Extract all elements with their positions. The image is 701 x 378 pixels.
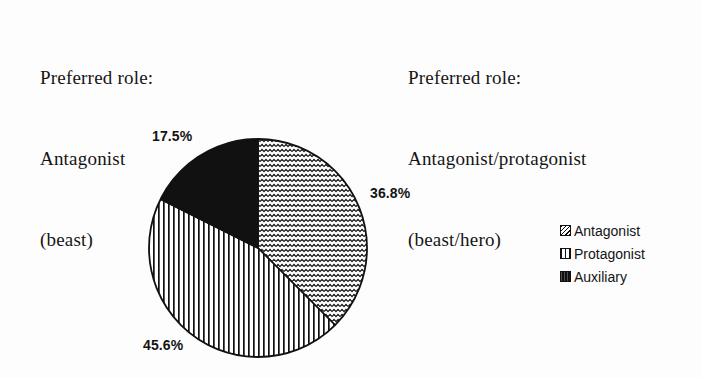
legend: Antagonist Protagonist Auxiliary <box>560 219 690 288</box>
caption-left-line-1: Preferred role: <box>40 64 153 91</box>
legend-item-auxiliary: Auxiliary <box>560 265 690 288</box>
pie-chart-svg <box>148 138 368 358</box>
legend-label-auxiliary: Auxiliary <box>574 269 627 285</box>
wavy-hatch-swatch-icon <box>560 225 571 236</box>
vertical-lines-swatch-icon <box>560 248 571 259</box>
value-label-protagonist: 45.6% <box>143 337 183 353</box>
figure-canvas: Preferred role: Antagonist (beast) Prefe… <box>0 0 701 378</box>
caption-right-line-1: Preferred role: <box>408 64 587 91</box>
legend-item-antagonist: Antagonist <box>560 219 690 242</box>
legend-label-antagonist: Antagonist <box>574 223 640 239</box>
caption-left-line-2: Antagonist <box>40 145 153 172</box>
legend-label-protagonist: Protagonist <box>574 246 645 262</box>
value-label-antagonist: 36.8% <box>370 185 410 201</box>
solid-black-swatch-icon <box>560 271 571 282</box>
caption-left-line-3: (beast) <box>40 226 153 253</box>
caption-left: Preferred role: Antagonist (beast) <box>40 10 153 307</box>
pie-chart <box>148 138 368 358</box>
caption-right-line-2: Antagonist/protagonist <box>408 145 587 172</box>
value-label-auxiliary: 17.5% <box>152 128 192 144</box>
legend-item-protagonist: Protagonist <box>560 242 690 265</box>
